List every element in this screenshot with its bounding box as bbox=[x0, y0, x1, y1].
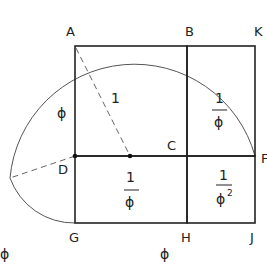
bottom-mid-phi: ϕ bbox=[160, 246, 169, 262]
label-g: G bbox=[69, 230, 79, 245]
label-radius-one: 1 bbox=[111, 90, 120, 106]
golden-ratio-diagram: A B K C D F G H J 1 ϕ 1 ϕ 1 ϕ 1 ϕ 2 ϕ ϕ bbox=[0, 0, 267, 274]
lower-mid-numerator: 1 bbox=[126, 169, 135, 185]
lower-right-denominator: ϕ bbox=[216, 191, 225, 207]
upper-right-numerator: 1 bbox=[215, 90, 224, 106]
label-a: A bbox=[66, 24, 75, 39]
midpoint-dot bbox=[128, 154, 133, 159]
label-k: K bbox=[254, 24, 263, 39]
lower-right-exponent: 2 bbox=[227, 188, 233, 198]
label-f: F bbox=[261, 151, 267, 166]
point-d-dot bbox=[73, 154, 78, 159]
small-arc bbox=[10, 178, 75, 223]
dashed-radius-1 bbox=[76, 48, 130, 156]
label-d: D bbox=[58, 162, 68, 177]
lower-mid-denominator: ϕ bbox=[125, 194, 134, 210]
lower-right-numerator: 1 bbox=[219, 167, 228, 183]
label-h: H bbox=[181, 230, 191, 245]
bottom-left-phi: ϕ bbox=[0, 246, 9, 262]
label-side-phi: ϕ bbox=[57, 105, 66, 121]
label-c: C bbox=[167, 138, 176, 153]
label-j: J bbox=[249, 230, 254, 245]
label-b: B bbox=[185, 24, 194, 39]
upper-right-denominator: ϕ bbox=[214, 114, 223, 130]
